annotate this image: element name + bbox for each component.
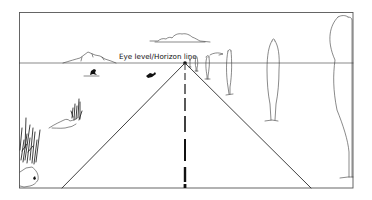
mountain-icon: [63, 52, 116, 63]
picture-frame: [20, 13, 354, 189]
tree-icon: [265, 39, 279, 121]
tree-icon: [226, 50, 233, 96]
road-right-edge: [185, 63, 311, 188]
grass-icon: [20, 118, 40, 187]
road-left-edge: [62, 63, 185, 188]
figure-icon: [146, 72, 156, 78]
tree-icon: [330, 16, 353, 179]
figure-icon: [84, 69, 99, 76]
perspective-diagram: Eye level/Horizon line: [0, 0, 372, 200]
road-center-line: [184, 65, 187, 188]
tree-icon: [205, 53, 223, 79]
horizon-label: Eye level/Horizon line: [119, 52, 197, 61]
shrub-icon: [49, 99, 82, 128]
cloud-icon: [150, 34, 210, 42]
